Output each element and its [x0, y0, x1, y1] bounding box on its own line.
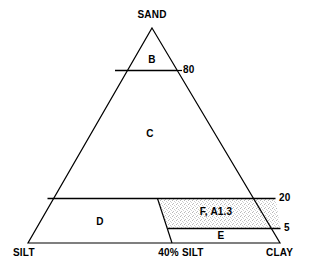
region-label-b: B: [148, 55, 155, 65]
vertex-label-clay: CLAY: [266, 248, 293, 258]
region-label-e: E: [218, 231, 225, 241]
vertex-label-silt: SILT: [13, 248, 35, 258]
tick-label-20: 20: [279, 193, 291, 203]
tick-label-5: 5: [284, 223, 290, 233]
tick-label-80: 80: [183, 65, 195, 75]
region-label-d: D: [96, 217, 103, 227]
region-label-f: F, A1.3: [200, 207, 233, 217]
vertex-label-sand: SAND: [137, 10, 166, 20]
ternary-diagram-figure: SAND SILT CLAY 40% SILT 80 20 5 B C D E …: [0, 0, 314, 263]
axis-label-40-silt: 40% SILT: [158, 248, 203, 258]
ternary-diagram-svg: [0, 0, 314, 263]
region-label-c: C: [146, 129, 153, 139]
